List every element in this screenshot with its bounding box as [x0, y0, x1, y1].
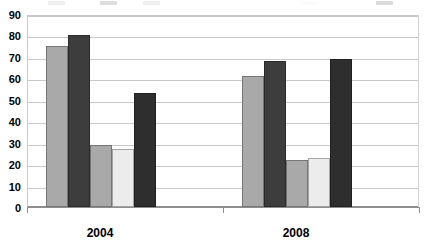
legend-swatch-1 [48, 1, 65, 5]
legend-swatch-4 [300, 1, 317, 5]
plot-area [27, 15, 419, 208]
y-axis-tick-label: 80 [9, 30, 21, 42]
legend-item-3 [143, 0, 160, 5]
y-axis-tick-label: 90 [9, 9, 21, 21]
x-axis-tick-label-2004: 2004 [87, 226, 114, 240]
bar-2008-series-5 [330, 59, 352, 207]
bar-group-2004 [46, 16, 156, 207]
bar-2004-series-3 [90, 145, 112, 207]
bar-2008-series-3 [286, 160, 308, 207]
bar-group-2008 [242, 16, 352, 207]
x-axis-tickmark [27, 207, 28, 213]
legend-swatch-5 [376, 1, 393, 5]
legend-item-1 [48, 0, 65, 5]
y-axis: 0102030405060708090 [0, 0, 26, 248]
y-axis-tick-label: 40 [9, 116, 21, 128]
chart-legend-cropped [0, 0, 427, 5]
y-axis-tick-label: 30 [9, 138, 21, 150]
y-axis-tick-label: 50 [9, 95, 21, 107]
bar-2004-series-2 [68, 35, 90, 207]
y-axis-tick-label: 0 [15, 202, 21, 214]
bar-2004-series-1 [46, 46, 68, 207]
legend-item-5 [376, 0, 393, 5]
bar-2008-series-4 [308, 158, 330, 207]
y-axis-tick-label: 20 [9, 159, 21, 171]
legend-item-4 [300, 0, 317, 5]
x-axis-tickmark [223, 207, 224, 213]
bar-2008-series-2 [264, 61, 286, 207]
legend-swatch-2 [100, 1, 117, 5]
bar-2004-series-4 [112, 149, 134, 207]
x-axis-tickmark [419, 207, 420, 213]
bar-2004-series-5 [134, 93, 156, 207]
x-axis-tick-label-2008: 2008 [283, 226, 310, 240]
bar-chart: 0102030405060708090 20042008 [0, 0, 427, 248]
legend-item-2 [100, 0, 117, 5]
bar-2008-series-1 [242, 76, 264, 207]
y-axis-tick-label: 70 [9, 52, 21, 64]
y-axis-tick-label: 60 [9, 73, 21, 85]
y-axis-tick-label: 10 [9, 181, 21, 193]
legend-swatch-3 [143, 1, 160, 5]
